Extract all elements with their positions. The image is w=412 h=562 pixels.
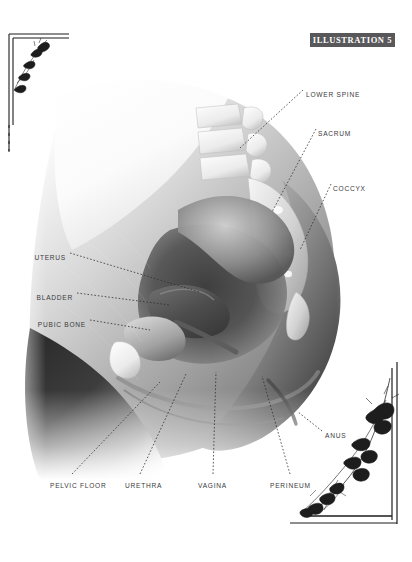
label-vagina: VAGINA — [198, 483, 227, 490]
illustration-plate: LOWER SPINE SACRUM COCCYX UTERUS BLADDER… — [0, 0, 412, 562]
label-sacrum: SACRUM — [318, 131, 351, 138]
illustration-badge: ILLUSTRATION 5 — [310, 33, 395, 47]
top-left-corner-ornament — [8, 33, 70, 153]
bottom-right-corner-ornament — [280, 360, 404, 525]
label-urethra: URETHRA — [125, 483, 162, 490]
label-uterus: UTERUS — [34, 255, 66, 262]
label-coccyx: COCCYX — [333, 186, 366, 193]
floral-sprig — [14, 38, 50, 93]
label-pubic-bone: PUBIC BONE — [38, 322, 86, 329]
flowering-vine — [300, 378, 399, 517]
label-pelvic-floor: PELVIC FLOOR — [50, 483, 107, 490]
label-lower-spine: LOWER SPINE — [306, 92, 360, 99]
lumbar-vertebrae — [196, 104, 271, 183]
label-bladder: BLADDER — [37, 295, 73, 302]
